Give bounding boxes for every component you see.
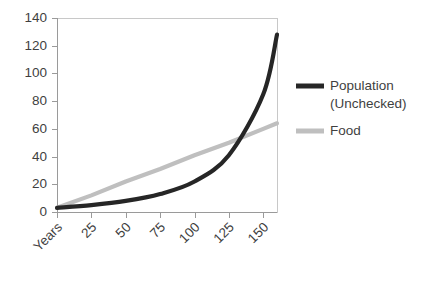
plot-area-border: [58, 19, 278, 213]
y-tick-label: 40: [32, 149, 47, 164]
y-tick-label: 120: [24, 38, 47, 53]
x-tick-label: 25: [78, 220, 99, 241]
legend-label-population-line2: (Unchecked): [330, 96, 407, 111]
x-tick-label: 50: [113, 220, 134, 241]
x-tick-label: 100: [176, 220, 203, 247]
x-tick-label: 75: [147, 220, 168, 241]
legend-label-population-line1: Population: [330, 78, 394, 93]
x-tick-label: 150: [245, 220, 272, 247]
x-tick-label: 125: [210, 220, 237, 247]
y-tick-label: 60: [32, 121, 47, 136]
population-vs-food-line-chart: 020406080100120140Years255075100125150Po…: [0, 0, 435, 281]
x-tick-label: Years: [30, 219, 65, 254]
y-tick-label: 100: [24, 65, 47, 80]
y-tick-label: 20: [32, 176, 47, 191]
series-line-population: [57, 35, 277, 208]
y-tick-label: 140: [24, 10, 47, 25]
legend-label-food: Food: [330, 123, 361, 138]
chart-container: 020406080100120140Years255075100125150Po…: [0, 0, 435, 281]
y-tick-label: 80: [32, 93, 47, 108]
y-tick-label: 0: [39, 204, 47, 219]
